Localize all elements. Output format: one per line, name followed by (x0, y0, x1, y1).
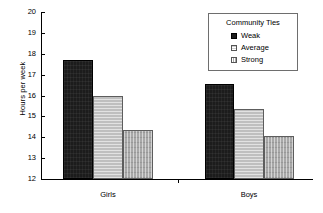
legend-swatch-average-icon (231, 45, 237, 51)
x-label-boys: Boys (219, 190, 279, 199)
y-tick-mark (42, 54, 45, 55)
y-tick-mark (42, 12, 45, 13)
bar-girls-weak (63, 60, 93, 179)
x-axis-separator-tick (178, 179, 179, 183)
x-label-girls: Girls (78, 190, 138, 199)
y-axis-title: Hours per week (18, 19, 27, 159)
legend-label-strong: Strong (241, 55, 263, 64)
legend-item-average: Average (231, 43, 297, 52)
legend-item-strong: Strong (231, 55, 297, 64)
legend-title: Community Ties (209, 18, 297, 27)
bar-chart: Hours per week 20 19 18 17 16 15 14 (0, 0, 323, 213)
legend-item-weak: Weak (231, 31, 297, 40)
y-tick-mark (42, 116, 45, 117)
legend-swatch-strong-icon (231, 57, 237, 63)
bar-boys-strong (264, 136, 294, 179)
y-tick-mark (42, 75, 45, 76)
bar-girls-strong (123, 130, 153, 179)
y-tick-mark (42, 137, 45, 138)
y-tick-mark (42, 158, 45, 159)
y-tick-mark (42, 33, 45, 34)
bar-boys-average (234, 109, 264, 179)
legend-swatch-weak-icon (231, 33, 237, 39)
y-tick-mark (42, 179, 45, 180)
bar-boys-weak (205, 84, 234, 179)
bar-girls-average (93, 96, 123, 180)
legend-label-average: Average (241, 43, 269, 52)
legend-label-weak: Weak (241, 31, 260, 40)
y-tick-mark (42, 96, 45, 97)
legend: Community Ties Weak Average Strong (208, 13, 298, 71)
